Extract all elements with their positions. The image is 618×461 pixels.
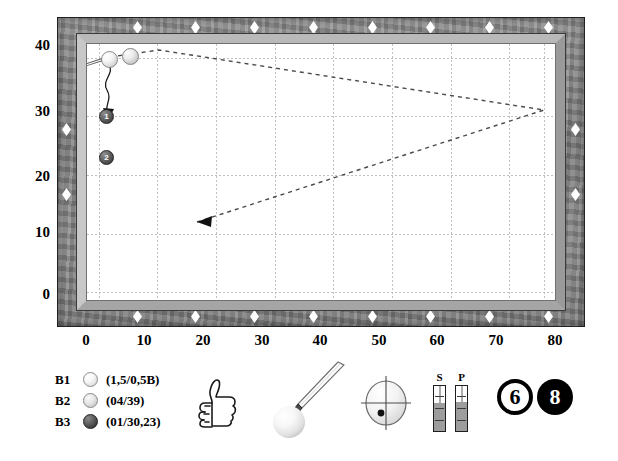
ball-legend: B1 (1,5/0,5B) B2 (04/39) B3 (01/30,23) — [55, 369, 161, 432]
spin-target-icon[interactable] — [358, 374, 414, 436]
gauge-label-s: S — [436, 372, 442, 383]
number-ball-label: 6 — [510, 386, 521, 408]
x-axis-label-80: 80 — [538, 333, 572, 348]
x-axis-label-30: 30 — [245, 333, 279, 348]
gauge-s[interactable]: S — [433, 372, 446, 432]
spin-contact-point — [378, 410, 385, 417]
y-axis-label-30: 30 — [16, 104, 50, 119]
x-axis-label-50: 50 — [362, 333, 396, 348]
shot-diagram-root: 40 30 20 10 0 0 10 20 30 40 50 60 70 80 — [0, 0, 618, 461]
playfield: 1 2 — [86, 43, 556, 301]
ball-object-2[interactable]: 2 — [99, 150, 114, 165]
gauge-p[interactable]: P — [455, 372, 468, 432]
gauge-tick — [435, 396, 444, 397]
y-axis-label-40: 40 — [16, 38, 50, 53]
legend-row-b2: B2 (04/39) — [55, 390, 161, 411]
x-axis-label-60: 60 — [420, 333, 454, 348]
legend-row-b1: B1 (1,5/0,5B) — [55, 369, 161, 390]
ball-object-1[interactable]: 1 — [99, 109, 114, 124]
legend-key-b3: B3 — [55, 414, 81, 430]
y-axis-label-20: 20 — [16, 169, 50, 184]
ball-b2[interactable] — [122, 48, 139, 65]
speed-power-gauges: S P — [433, 372, 468, 432]
target-number-balls: 6 8 — [497, 379, 573, 415]
gauge-tick — [457, 396, 466, 397]
gauge-tick — [435, 420, 444, 421]
ball-light-icon — [83, 372, 98, 387]
ball-dark-icon — [83, 414, 98, 429]
x-axis-label-40: 40 — [303, 333, 337, 348]
gauge-tick — [457, 408, 466, 409]
billiard-table: 1 2 — [57, 17, 585, 327]
ball-number-label: 1 — [104, 113, 108, 121]
x-axis-label-10: 10 — [127, 333, 161, 348]
number-ball-label: 8 — [550, 386, 561, 408]
gauge-tick — [457, 420, 466, 421]
gauge-label-p: P — [458, 372, 465, 383]
ball-light-icon — [83, 393, 98, 408]
legend-key-b1: B1 — [55, 372, 81, 388]
legend-value-b3: (01/30,23) — [106, 414, 161, 430]
ball-number-label: 2 — [104, 154, 108, 162]
x-axis-label-0: 0 — [69, 333, 103, 348]
y-axis-label-10: 10 — [16, 225, 50, 240]
gauge-fill-p — [456, 402, 467, 431]
x-axis-label-70: 70 — [479, 333, 513, 348]
y-axis-label-0: 0 — [16, 287, 50, 302]
gauge-track-s[interactable] — [433, 385, 446, 432]
number-ball-6[interactable]: 6 — [497, 379, 533, 415]
gauge-tick — [435, 408, 444, 409]
ball-b1-cue[interactable] — [101, 51, 118, 68]
legend-key-b2: B2 — [55, 393, 81, 409]
legend-value-b2: (04/39) — [106, 393, 144, 409]
cue-stick-icon — [294, 362, 344, 412]
gauge-track-p[interactable] — [455, 385, 468, 432]
thumbs-up-icon — [194, 376, 240, 432]
spin-squiggle — [95, 58, 155, 138]
legend-value-b1: (1,5/0,5B) — [106, 372, 159, 388]
legend-row-b3: B3 (01/30,23) — [55, 411, 161, 432]
cue-stick-and-ball — [272, 360, 354, 446]
number-ball-8[interactable]: 8 — [537, 379, 573, 415]
x-axis-label-20: 20 — [186, 333, 220, 348]
cue-ball-icon — [273, 406, 305, 438]
